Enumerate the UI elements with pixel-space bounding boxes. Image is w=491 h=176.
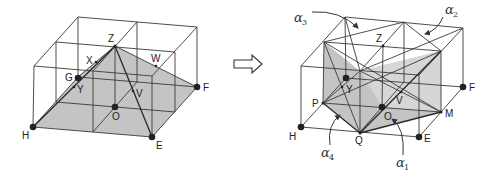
svg-text:4: 4 [329, 153, 334, 162]
label-Y: Y [77, 84, 84, 95]
point-V [132, 90, 135, 93]
label-P: P [312, 98, 319, 109]
label-V: V [396, 95, 403, 106]
point-O [112, 104, 119, 111]
svg-text:1: 1 [404, 163, 409, 172]
label-O: O [112, 111, 120, 122]
label-F: F [469, 82, 475, 93]
point-Y [73, 86, 76, 89]
plane-label-alpha3: α 3 [294, 10, 358, 28]
point-X [95, 61, 98, 64]
point-E [416, 134, 423, 141]
plane-label-alpha4: α 4 [321, 115, 340, 162]
point-F [460, 84, 467, 91]
left-diagram: Z X W G Y V O F H E [22, 17, 209, 151]
point-P [322, 102, 325, 105]
label-E: E [424, 133, 431, 144]
label-Q: Q [355, 135, 363, 146]
label-W: W [151, 53, 161, 64]
point-G [343, 75, 350, 82]
label-V: V [136, 88, 143, 99]
point-Y [341, 86, 344, 89]
label-X: X [86, 55, 93, 66]
point-E [149, 134, 156, 141]
point-H [298, 124, 305, 131]
label-E: E [156, 140, 163, 151]
label-F: F [203, 82, 209, 93]
point-G [75, 75, 82, 82]
point-O [379, 104, 386, 111]
label-G: G [65, 72, 73, 83]
plane-label-alpha2: α 2 [425, 2, 458, 34]
svg-text:3: 3 [302, 18, 307, 27]
point-W [155, 65, 158, 68]
plane-label-alpha1: α 1 [392, 119, 409, 172]
point-F [194, 84, 201, 91]
transform-arrow-icon [234, 55, 262, 73]
point-Z [113, 44, 116, 47]
point-H [30, 124, 37, 131]
label-Y: Y [346, 84, 353, 95]
right-diagram: Z Y F P V O M H Q E α 3 α 2 α 4 α 1 [289, 2, 475, 172]
point-V [400, 91, 403, 94]
label-H: H [289, 131, 296, 142]
label-M: M [445, 108, 453, 119]
point-M [440, 111, 443, 114]
label-H: H [22, 130, 29, 141]
point-Z [382, 45, 385, 48]
label-O: O [384, 111, 392, 122]
geometry-figure: Z X W G Y V O F H E [0, 0, 491, 176]
label-Z: Z [108, 33, 114, 44]
svg-text:2: 2 [453, 10, 458, 19]
label-Z: Z [376, 33, 382, 44]
